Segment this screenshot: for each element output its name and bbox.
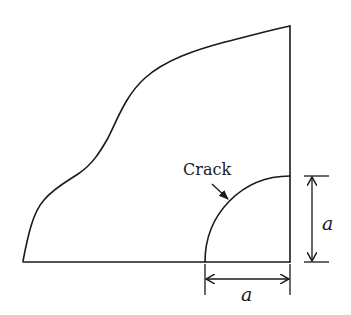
diagram-canvas: Crack a a — [0, 0, 351, 315]
crack-label: Crack — [183, 160, 231, 179]
horizontal-dim-label: a — [241, 283, 252, 305]
body-free-boundary — [23, 26, 290, 261]
crack-pointer-arrow — [212, 184, 228, 199]
vertical-dim-label: a — [322, 212, 333, 234]
